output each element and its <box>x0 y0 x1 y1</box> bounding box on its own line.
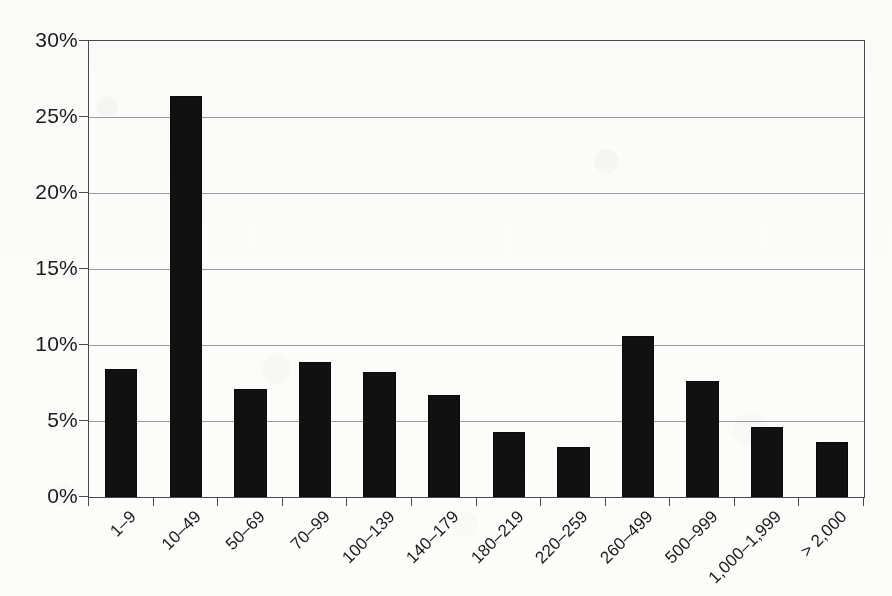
y-axis-tick-mark <box>79 344 88 345</box>
bar <box>557 447 589 497</box>
x-axis-tick-mark <box>476 497 477 506</box>
bar <box>170 96 202 497</box>
x-axis-tick-label: 1–9 <box>107 507 141 541</box>
y-axis-tick-mark <box>79 268 88 269</box>
y-axis-tick-label: 10% <box>35 332 78 356</box>
y-axis-tick-label: 5% <box>47 408 78 432</box>
y-axis-tick-label: 25% <box>35 104 78 128</box>
x-axis-tick-label: 140–179 <box>403 507 464 568</box>
x-axis-tick-label: 100–139 <box>338 507 399 568</box>
x-axis-tick-label: 500–999 <box>661 507 722 568</box>
x-axis-tick-label: 260–499 <box>596 507 657 568</box>
y-axis-tick-label: 20% <box>35 180 78 204</box>
x-axis-tick-mark <box>217 497 218 506</box>
bar <box>299 362 331 497</box>
bar <box>686 381 718 497</box>
x-axis-tick-mark <box>669 497 670 506</box>
gridline <box>89 345 864 346</box>
x-axis-ticks <box>88 497 863 507</box>
x-axis-tick-mark <box>153 497 154 506</box>
x-axis-tick-label: 10–49 <box>158 507 206 555</box>
gridline <box>89 117 864 118</box>
x-axis-tick-mark <box>734 497 735 506</box>
x-axis-labels: 1–910–4950–6970–99100–139140–179180–2192… <box>88 507 863 593</box>
bar <box>363 372 395 497</box>
x-axis-tick-mark <box>798 497 799 506</box>
x-axis-tick-mark <box>282 497 283 506</box>
plot-area <box>88 40 865 498</box>
bar <box>622 336 654 497</box>
chart-figure: 0%5%10%15%20%25%30% 1–910–4950–6970–9910… <box>0 0 892 596</box>
y-axis-tick-mark <box>79 116 88 117</box>
x-axis-tick-label: 50–69 <box>222 507 270 555</box>
x-axis-tick-mark <box>605 497 606 506</box>
gridline <box>89 421 864 422</box>
bar <box>105 369 137 497</box>
x-axis-tick-label: 220–259 <box>532 507 593 568</box>
y-axis-tick-label: 30% <box>35 28 78 52</box>
y-axis-tick-label: 15% <box>35 256 78 280</box>
bar <box>234 389 266 497</box>
x-axis-tick-label: 180–219 <box>467 507 528 568</box>
x-axis-tick-label: 70–99 <box>287 507 335 555</box>
bar <box>493 432 525 497</box>
x-axis-tick-mark <box>540 497 541 506</box>
x-axis-tick-mark <box>863 497 864 506</box>
x-axis-tick-mark <box>346 497 347 506</box>
bar <box>428 395 460 497</box>
x-axis-tick-mark <box>88 497 89 506</box>
bar <box>751 427 783 497</box>
bar <box>816 442 848 497</box>
y-axis-tick-mark <box>79 40 88 41</box>
y-axis-tick-mark <box>79 496 88 497</box>
gridline <box>89 269 864 270</box>
y-axis-tick-label: 0% <box>47 484 78 508</box>
x-axis-tick-label: > 2,000 <box>796 507 851 562</box>
gridline <box>89 193 864 194</box>
y-axis-tick-mark <box>79 420 88 421</box>
y-axis: 0%5%10%15%20%25%30% <box>0 0 78 596</box>
x-axis-tick-mark <box>411 497 412 506</box>
y-axis-tick-mark <box>79 192 88 193</box>
